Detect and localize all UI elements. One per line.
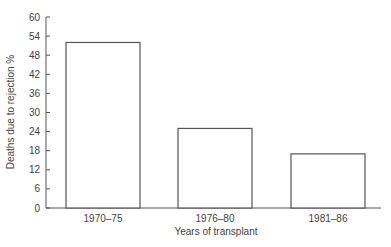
x-tick-label: 1981–86 [309, 213, 348, 224]
bars [66, 42, 365, 208]
y-tick-label: 30 [29, 107, 41, 118]
y-tick-label: 12 [29, 164, 41, 175]
bar-chart: 06121824303642485460 1970–751976–801981–… [0, 0, 391, 247]
y-tick-label: 60 [29, 12, 41, 23]
bar [291, 154, 365, 208]
y-tick-label: 54 [29, 31, 41, 42]
y-tick-label: 24 [29, 126, 41, 137]
y-axis-label: Deaths due to rejection % [5, 55, 16, 170]
x-tick-label: 1970–75 [84, 213, 123, 224]
y-tick-label: 42 [29, 69, 41, 80]
y-tick-label: 48 [29, 50, 41, 61]
y-tick-label: 36 [29, 88, 41, 99]
x-axis-label: Years of transplant [174, 226, 257, 237]
x-axis: 1970–751976–801981–86 [46, 208, 381, 224]
bar [178, 128, 252, 208]
bar [66, 42, 140, 208]
y-axis: 06121824303642485460 [29, 12, 50, 214]
y-tick-label: 6 [34, 183, 40, 194]
x-tick-label: 1976–80 [196, 213, 235, 224]
y-tick-label: 18 [29, 145, 41, 156]
y-tick-label: 0 [34, 203, 40, 214]
